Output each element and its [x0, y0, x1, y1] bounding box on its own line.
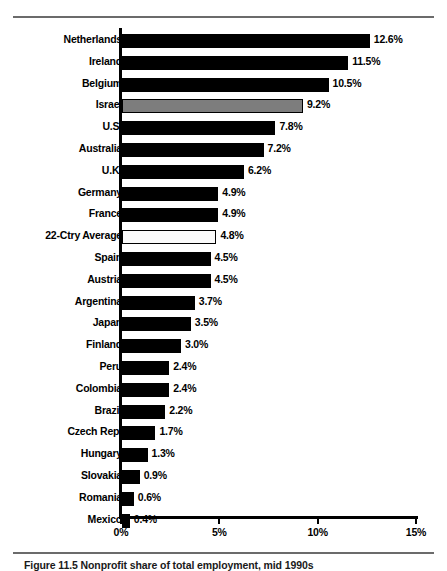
bar [122, 405, 165, 419]
category-label: Spain [12, 250, 122, 264]
bar [122, 121, 275, 135]
x-axis-line [119, 516, 418, 519]
figure-caption: Figure 11.5 Nonprofit share of total emp… [24, 559, 434, 571]
bar-value-label: 3.7% [199, 294, 222, 308]
bar-row: U.K.6.2% [0, 165, 447, 179]
bar-value-label: 7.8% [279, 119, 302, 133]
x-axis-tick [415, 519, 417, 524]
bar [122, 99, 303, 113]
bar-value-label: 4.8% [220, 228, 243, 242]
category-label: Ireland [12, 54, 122, 68]
bar [122, 339, 181, 353]
category-label: Slovakia [12, 468, 122, 482]
bar-value-label: 9.2% [307, 97, 330, 111]
bar [122, 208, 218, 222]
category-label: Austria [12, 272, 122, 286]
bar-row: Argentina3.7% [0, 296, 447, 310]
category-label: Australia [12, 141, 122, 155]
category-label: 22-Ctry Average [12, 228, 122, 242]
bar-row: U.S.7.8% [0, 121, 447, 135]
category-label: Romania [12, 490, 122, 504]
bar-row: Hungary1.3% [0, 448, 447, 462]
bar-value-label: 3.5% [195, 315, 218, 329]
bar [122, 317, 191, 331]
bar-value-label: 4.5% [215, 250, 238, 264]
bar-row: Germany4.9% [0, 187, 447, 201]
bar-value-label: 3.0% [185, 337, 208, 351]
y-axis-line [119, 28, 122, 518]
bar [122, 492, 134, 506]
bar-value-label: 2.4% [173, 381, 196, 395]
bar-value-label: 1.7% [159, 424, 182, 438]
bar [122, 274, 211, 288]
category-label: Peru [12, 359, 122, 373]
x-axis-tick [120, 519, 122, 524]
category-label: Israel [12, 97, 122, 111]
category-label: France [12, 206, 122, 220]
bar [122, 426, 155, 440]
category-label: Japan [12, 315, 122, 329]
category-label: Brazil [12, 403, 122, 417]
bar-row: Finland3.0% [0, 339, 447, 353]
bar [122, 296, 195, 310]
category-label: Finland [12, 337, 122, 351]
bar [122, 448, 148, 462]
category-label: U.S. [12, 119, 122, 133]
bar-row: Belgium10.5% [0, 78, 447, 92]
bar-value-label: 0.9% [144, 468, 167, 482]
x-axis-tick-label: 0% [114, 526, 129, 538]
bar [122, 187, 218, 201]
bar [122, 34, 370, 48]
x-axis-tick-label: 10% [307, 526, 327, 538]
bar-value-label: 4.5% [215, 272, 238, 286]
bar-value-label: 11.5% [352, 54, 380, 68]
bar-row: Netherlands12.6% [0, 34, 447, 48]
bar-value-label: 12.6% [374, 32, 403, 46]
category-label: U.K. [12, 163, 122, 177]
bar [122, 383, 169, 397]
bar-value-label: 0.6% [138, 490, 161, 504]
bar [122, 252, 211, 266]
bar-row: France4.9% [0, 208, 447, 222]
bar-row: Israel9.2% [0, 99, 447, 113]
category-label: Germany [12, 185, 122, 199]
category-label: Hungary [12, 446, 122, 460]
bar [122, 165, 244, 179]
category-label: Colombia [12, 381, 122, 395]
bar-row: Colombia2.4% [0, 383, 447, 397]
bar-row: Japan3.5% [0, 317, 447, 331]
x-axis-tick-label: 15% [406, 526, 426, 538]
bar-row: Romania0.6% [0, 492, 447, 506]
category-label: Mexico [12, 512, 122, 526]
bar [122, 78, 329, 92]
category-label: Netherlands [12, 32, 122, 46]
bar-value-label: 6.2% [248, 163, 271, 177]
bar-row: Australia7.2% [0, 143, 447, 157]
bar [122, 56, 348, 70]
bar-value-label: 1.3% [152, 446, 175, 460]
bar-row: Slovakia0.9% [0, 470, 447, 484]
x-axis-tick-label: 5% [212, 526, 227, 538]
bar [122, 143, 264, 157]
bar-value-label: 2.2% [169, 403, 192, 417]
bar-chart: Netherlands12.6%Ireland11.5%Belgium10.5%… [0, 28, 447, 528]
bar-value-label: 2.4% [173, 359, 196, 373]
bar-value-label: 4.9% [222, 206, 245, 220]
bar-row: Peru2.4% [0, 361, 447, 375]
bar [122, 470, 140, 484]
bar-row: Czech Rep.1.7% [0, 426, 447, 440]
top-divider-rule [13, 16, 434, 18]
bar-row: Brazil2.2% [0, 405, 447, 419]
bar-value-label: 10.5% [333, 76, 362, 90]
bar-row: Ireland11.5% [0, 56, 447, 70]
bar-value-label: 7.2% [268, 141, 291, 155]
bottom-divider-rule [13, 552, 434, 554]
category-label: Argentina [12, 294, 122, 308]
x-axis-tick [317, 519, 319, 524]
bar-value-label: 4.9% [222, 185, 245, 199]
bar [122, 230, 216, 244]
category-label: Czech Rep. [12, 424, 122, 438]
category-label: Belgium [12, 76, 122, 90]
bar [122, 361, 169, 375]
